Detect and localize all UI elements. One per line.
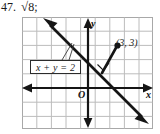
equation-label-box: x + y = 2	[30, 60, 81, 74]
x-axis-label: x	[146, 89, 151, 100]
radicand: 8;	[28, 0, 37, 14]
coordinate-graph-figure: x + y = 2 (3, 3) y x O	[22, 17, 153, 129]
equation-text: x + y = 2	[36, 62, 75, 73]
radical-sign: √	[19, 0, 28, 14]
problem-label: 47. √8;	[1, 0, 37, 14]
point-coordinate-label: (3, 3)	[116, 37, 138, 48]
y-axis-label: y	[91, 18, 95, 29]
problem-number: 47.	[1, 0, 16, 14]
origin-label: O	[78, 89, 85, 100]
